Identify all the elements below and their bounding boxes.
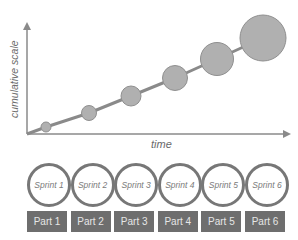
part-box-5: Part 5 (201, 211, 241, 232)
sprint-circle-2: Sprint 2 (71, 163, 115, 207)
sprint-row: Sprint 1 Sprint 2 Sprint 3 Sprint 4 Spri… (27, 163, 289, 208)
sprint-circle-6: Sprint 6 (245, 163, 289, 207)
bubble-6 (240, 15, 286, 61)
part-row: Part 1 Part 2 Part 3 Part 4 Part 5 Part … (27, 211, 289, 232)
part-box-4: Part 4 (158, 211, 198, 232)
sprint-circle-5: Sprint 5 (201, 163, 245, 207)
sprint-circle-1: Sprint 1 (27, 163, 71, 207)
x-axis-label: time (151, 138, 172, 150)
bubble-1 (41, 122, 51, 132)
part-box-6: Part 6 (245, 211, 285, 232)
growth-chart (0, 0, 298, 160)
part-box-2: Part 2 (71, 211, 111, 232)
part-box-3: Part 3 (114, 211, 154, 232)
sprint-circle-4: Sprint 4 (158, 163, 202, 207)
bubble-2 (82, 106, 97, 121)
bubble-5 (201, 43, 234, 76)
part-box-1: Part 1 (27, 211, 67, 232)
bubbles (41, 15, 286, 132)
sprint-circle-3: Sprint 3 (114, 163, 158, 207)
bubble-4 (163, 66, 188, 91)
y-axis-label: cumulative scale (8, 42, 20, 118)
bubble-3 (121, 86, 141, 106)
